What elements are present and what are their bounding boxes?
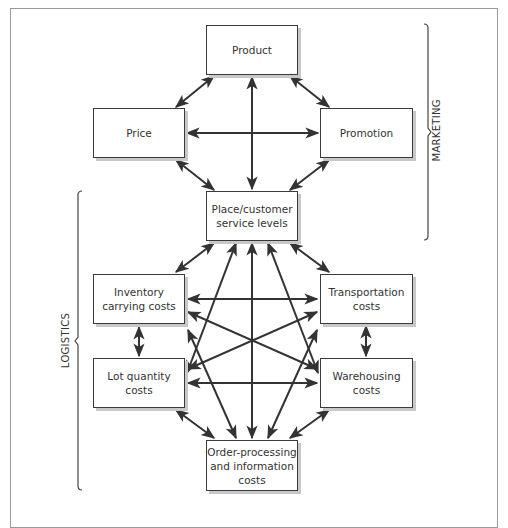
node-label: Price <box>126 126 152 140</box>
node-promotion: Promotion <box>320 108 413 158</box>
node-lot-quantity: Lot quantity costs <box>93 358 185 408</box>
marketing-label: MARKETING <box>431 102 442 162</box>
arrow-place-warehousing <box>268 243 318 373</box>
logistics-brace <box>75 191 82 490</box>
node-place: Place/customer service levels <box>206 191 298 241</box>
arrow-place-lot <box>187 243 236 373</box>
arrow-place-transportation <box>290 243 329 272</box>
node-price: Price <box>93 108 185 158</box>
node-warehousing: Warehousing costs <box>320 358 413 408</box>
node-label: Product <box>232 43 272 57</box>
node-order-processing: Order-processing and information costs <box>206 440 298 491</box>
node-label: Order-processing and information costs <box>207 445 297 487</box>
node-label: Lot quantity costs <box>107 369 170 397</box>
arrow-warehousing-order <box>290 410 329 438</box>
arrow-lot-order <box>176 410 214 438</box>
node-product: Product <box>206 25 298 75</box>
node-label: Inventory carrying costs <box>102 285 176 313</box>
node-label: Transportation costs <box>329 285 405 313</box>
node-label: Warehousing costs <box>332 369 400 397</box>
node-label: Place/customer service levels <box>212 202 293 230</box>
arrow-product-price <box>176 76 214 107</box>
node-label: Promotion <box>340 126 393 140</box>
arrow-promotion-place <box>290 160 329 190</box>
node-transportation: Transportation costs <box>320 274 413 324</box>
arrow-product-promotion <box>290 76 329 107</box>
arrow-place-inventory <box>176 243 214 272</box>
logistics-label: LOGISTICS <box>60 311 71 371</box>
arrow-price-place <box>176 160 214 190</box>
node-inventory: Inventory carrying costs <box>93 274 185 324</box>
